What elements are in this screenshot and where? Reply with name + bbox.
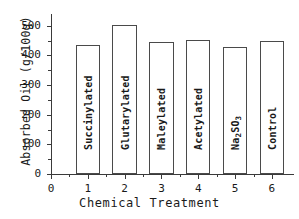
bar: Maleylated (149, 42, 173, 174)
x-axis-minor-tick (254, 174, 255, 177)
x-axis-tick (88, 174, 89, 179)
x-axis-tick (198, 174, 199, 179)
y-axis-tick: 100 (47, 144, 52, 145)
x-axis-minor-tick (69, 174, 70, 177)
y-axis-tick-label: 400 (21, 48, 41, 61)
x-axis-tick-label: 1 (85, 182, 92, 195)
x-axis-minor-tick (106, 174, 107, 177)
y-axis-minor-tick (48, 100, 51, 101)
y-axis-line (51, 14, 52, 174)
y-axis-minor-tick (48, 130, 51, 131)
bar-category-label: Acetylated (193, 88, 204, 150)
x-axis-title: Chemical Treatment (0, 196, 299, 210)
plot-area: 0100200300400500 0123456 SuccinylatedGlu… (51, 14, 294, 174)
y-axis-tick: 500 (47, 26, 52, 27)
x-axis-tick (51, 174, 52, 179)
bar-category-label: Control (266, 106, 277, 150)
x-axis-title-text: Chemical Treatment (79, 196, 220, 210)
x-axis-tick (125, 174, 126, 179)
x-axis-tick-label: 5 (232, 182, 239, 195)
bar: Na2SO3 (223, 47, 247, 174)
x-axis-tick-label: 4 (195, 182, 202, 195)
y-axis-minor-tick (48, 70, 51, 71)
bar: Glutarylated (112, 25, 136, 174)
y-axis-tick: 400 (47, 55, 52, 56)
bar-category-label: Maleylated (156, 88, 167, 150)
y-axis-tick: 200 (47, 115, 52, 116)
y-axis-tick-label: 100 (21, 137, 41, 150)
y-axis-tick-label: 300 (21, 78, 41, 91)
x-axis-tick-label: 6 (269, 182, 276, 195)
bar-category-label: Succinylated (82, 75, 93, 150)
y-axis-tick: 300 (47, 85, 52, 86)
bar-category-label: Na2SO3 (230, 116, 241, 150)
y-axis-minor-tick (48, 41, 51, 42)
x-axis-minor-tick (217, 174, 218, 177)
x-axis-tick-label: 2 (121, 182, 128, 195)
y-axis-tick-label: 500 (21, 19, 41, 32)
y-axis-tick-label: 0 (34, 167, 41, 180)
x-axis-tick (161, 174, 162, 179)
x-axis-tick (235, 174, 236, 179)
bar-category-label: Glutarylated (119, 75, 130, 150)
y-axis-tick-label: 200 (21, 108, 41, 121)
bar: Control (260, 41, 284, 174)
bar: Acetylated (186, 40, 210, 174)
y-axis-minor-tick (48, 159, 51, 160)
bar-chart-figure: Absorbed Oil (g/100g) 0100200300400500 0… (0, 0, 299, 219)
x-axis-minor-tick (143, 174, 144, 177)
x-axis-tick (272, 174, 273, 179)
x-axis-minor-tick (180, 174, 181, 177)
bar: Succinylated (76, 45, 100, 174)
x-axis-tick-label: 3 (158, 182, 165, 195)
x-axis-tick-label: 0 (48, 182, 55, 195)
